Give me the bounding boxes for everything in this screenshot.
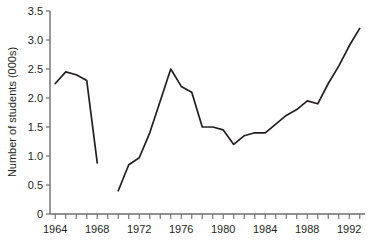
chart-container: 00.51.01.52.02.53.03.5 Number of student… <box>0 0 374 242</box>
x-tick-label: 1968 <box>85 223 109 235</box>
x-axis-tick-labels: 19641968197219761980198419881992 <box>43 223 361 235</box>
x-tick-label: 1984 <box>253 223 277 235</box>
x-tick-label: 1964 <box>43 223 67 235</box>
x-tick-label: 1992 <box>337 223 361 235</box>
students-segment-1 <box>55 72 97 163</box>
y-tick-label: 2.0 <box>28 92 43 104</box>
y-tick-label: 0 <box>37 208 43 220</box>
data-series-group <box>55 28 360 190</box>
x-tick-label: 1980 <box>211 223 235 235</box>
x-tick-label: 1988 <box>295 223 319 235</box>
y-axis-group: 00.51.01.52.02.53.03.5 Number of student… <box>6 5 50 220</box>
x-tick-label: 1976 <box>169 223 193 235</box>
x-tick-label: 1972 <box>127 223 151 235</box>
x-axis-ticks <box>55 214 360 219</box>
y-tick-label: 3.5 <box>28 5 43 17</box>
students-segment-2 <box>118 28 360 190</box>
y-tick-label: 3.0 <box>28 34 43 46</box>
y-tick-label: 2.5 <box>28 63 43 75</box>
y-axis-tick-labels: 00.51.01.52.02.53.03.5 <box>28 5 43 220</box>
y-tick-label: 1.0 <box>28 150 43 162</box>
y-tick-label: 0.5 <box>28 179 43 191</box>
y-axis-title: Number of students (000s) <box>6 47 18 177</box>
line-chart: 00.51.01.52.02.53.03.5 Number of student… <box>0 0 374 242</box>
x-axis-group: 19641968197219761980198419881992 <box>43 214 365 235</box>
y-tick-label: 1.5 <box>28 121 43 133</box>
